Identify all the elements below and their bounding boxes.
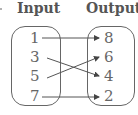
mapping-arrows	[0, 0, 138, 115]
arrow-5-to-6	[47, 57, 99, 78]
